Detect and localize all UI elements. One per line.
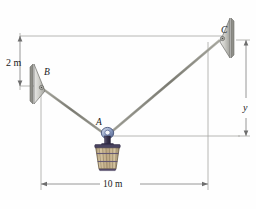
dimension-label-10m: 10 m [103,180,122,190]
dimension-label-2m: 2 m [6,58,21,68]
point-label-a: A [96,118,102,128]
reference-lines [20,33,240,190]
diagram-canvas [0,0,256,209]
ring-at-a [101,127,113,146]
wall-bracket-c [220,18,234,58]
statics-diagram: 2 m 10 m y A B C [0,0,256,209]
dimension-label-y: y [243,103,247,113]
point-label-c: C [221,26,227,36]
dimension-y [236,40,250,136]
dimension-10m [41,182,208,187]
cable-group [43,40,220,135]
wall-bracket-b [30,64,45,104]
hanging-basket [95,145,120,171]
point-label-b: B [44,68,50,78]
